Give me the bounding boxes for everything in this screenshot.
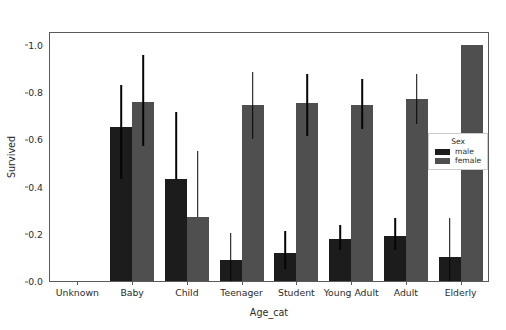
y-tick-mark [25,92,29,93]
x-tick-label-student: Student [278,287,315,298]
y-tick-label: 0.4 [28,181,43,192]
x-tick-mark [187,281,188,285]
y-tick-label: 1.0 [28,39,43,50]
error-bar-male-teenager [230,233,232,281]
y-tick-mark [25,281,29,282]
error-bar-male-young-adult [339,225,341,250]
plot-area: 0.00.20.40.60.81.0UnknownBabyChildTeenag… [49,32,489,282]
x-tick-mark [296,281,297,285]
bar-female-young-adult [351,105,373,281]
error-bar-female-student [307,74,309,135]
x-axis-label: Age_cat [250,307,288,318]
y-axis-label: Survived [6,136,17,178]
error-bar-male-baby [120,85,122,179]
x-tick-label-unknown: Unknown [56,287,99,298]
bars-layer [50,33,488,281]
bar-female-adult [406,99,428,281]
x-tick-mark [461,281,462,285]
x-tick-mark [242,281,243,285]
y-tick-mark [25,139,29,140]
error-bar-male-adult [394,218,396,250]
x-tick-label-child: Child [175,287,198,298]
x-tick-label-elderly: Elderly [445,287,477,298]
legend-swatch-male-icon [435,149,450,155]
error-bar-female-teenager [252,72,254,139]
error-bar-female-young-adult [361,79,363,129]
legend-box: Sex male female [428,133,488,170]
x-tick-mark [351,281,352,285]
x-tick-label-young-adult: Young Adult [324,287,379,298]
legend-entry-male: male [435,148,481,156]
x-tick-mark [77,281,78,285]
y-tick-label: 0.0 [28,276,43,287]
y-tick-mark [25,45,29,46]
error-bar-female-baby [142,55,144,146]
x-tick-label-adult: Adult [394,287,418,298]
figure-canvas: Survived Age_cat 0.00.20.40.60.81.0Unkno… [0,0,506,330]
bar-female-child [187,217,209,281]
y-tick-mark [25,187,29,188]
error-bar-female-child [197,151,199,217]
y-tick-label: 0.8 [28,87,43,98]
x-tick-label-baby: Baby [120,287,143,298]
x-tick-label-teenager: Teenager [220,287,263,298]
y-tick-mark [25,234,29,235]
legend-label-female: female [455,157,481,165]
y-tick-label: 0.2 [28,228,43,239]
error-bar-male-student [285,231,287,269]
legend-entry-female: female [435,157,481,165]
error-bar-male-child [175,112,177,179]
x-tick-mark [406,281,407,285]
legend-title: Sex [435,137,481,146]
legend-swatch-female-icon [435,158,450,164]
error-bar-female-adult [416,74,418,124]
y-tick-label: 0.6 [28,134,43,145]
x-tick-mark [132,281,133,285]
error-bar-male-elderly [449,218,451,281]
bar-male-child [165,179,187,281]
legend-label-male: male [455,148,474,156]
